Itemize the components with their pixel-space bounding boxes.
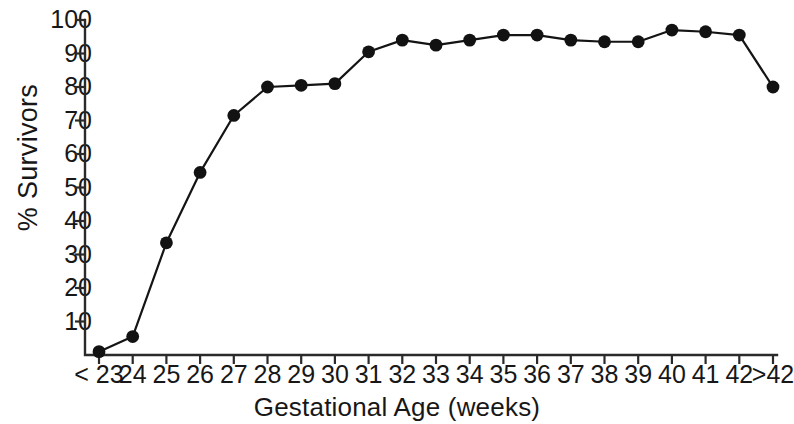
data-point bbox=[463, 34, 476, 47]
axes bbox=[85, 20, 777, 355]
tick-marks bbox=[75, 20, 773, 364]
data-point bbox=[329, 77, 342, 90]
data-point bbox=[767, 81, 780, 94]
data-point bbox=[261, 81, 274, 94]
data-point bbox=[160, 236, 173, 249]
data-point bbox=[531, 29, 544, 42]
chart-figure: % Survivors Gestational Age (weeks) 1020… bbox=[0, 0, 794, 424]
data-point bbox=[93, 345, 106, 358]
data-point bbox=[564, 34, 577, 47]
data-point bbox=[227, 109, 240, 122]
data-point bbox=[699, 25, 712, 38]
data-point bbox=[632, 35, 645, 48]
data-point bbox=[430, 39, 443, 52]
data-point bbox=[396, 34, 409, 47]
data-point bbox=[598, 35, 611, 48]
data-point bbox=[733, 29, 746, 42]
data-series-points bbox=[93, 24, 780, 358]
data-series-line bbox=[99, 30, 773, 352]
plot-area bbox=[0, 0, 794, 424]
data-point bbox=[126, 330, 139, 343]
data-point bbox=[497, 29, 510, 42]
data-point bbox=[666, 24, 679, 37]
data-point bbox=[295, 79, 308, 92]
data-point bbox=[194, 166, 207, 179]
data-point bbox=[362, 45, 375, 58]
